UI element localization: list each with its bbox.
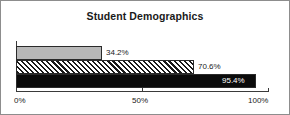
bar-row: 95.4% bbox=[16, 74, 268, 88]
bar-segment-2[interactable] bbox=[16, 60, 194, 74]
x-tick-label-0: 0% bbox=[14, 96, 26, 105]
x-tick-label-50: 50% bbox=[132, 96, 148, 105]
bar-value-label-2: 70.6% bbox=[198, 60, 221, 74]
bar-row: 70.6% bbox=[16, 60, 268, 74]
bar-segment-3[interactable] bbox=[16, 74, 256, 88]
bar-value-label-3: 95.4% bbox=[222, 74, 245, 88]
x-tick-mark-50 bbox=[142, 88, 143, 92]
x-tick-mark-0 bbox=[16, 88, 17, 92]
bar-value-label-1: 34.2% bbox=[106, 46, 129, 60]
bar-segment-1[interactable] bbox=[16, 46, 102, 60]
chart-title: Student Demographics bbox=[1, 10, 289, 22]
bar-row: 34.2% bbox=[16, 46, 268, 60]
x-tick-label-100: 100% bbox=[248, 96, 268, 105]
x-tick-mark-100 bbox=[268, 88, 269, 92]
chart-container: Student Demographics 0% 50% 100% 34.2% 7… bbox=[0, 0, 290, 115]
